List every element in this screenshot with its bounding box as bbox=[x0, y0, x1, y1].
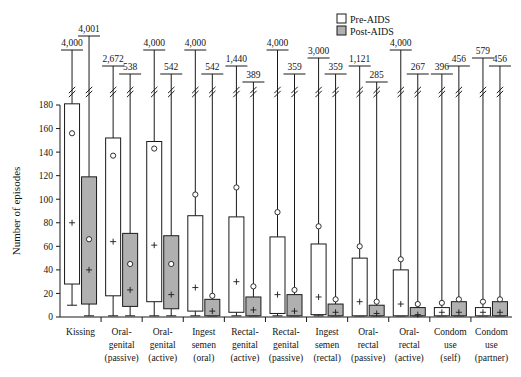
y-axis-title: Number of episodes bbox=[10, 167, 22, 256]
category-label: rectal bbox=[358, 340, 379, 350]
max-value-label: 456 bbox=[452, 54, 467, 64]
percentile-marker bbox=[316, 224, 321, 229]
percentile-marker bbox=[415, 301, 420, 306]
y-axis bbox=[56, 105, 60, 317]
max-value-label: 456 bbox=[493, 54, 508, 64]
box-pre-aids bbox=[102, 66, 124, 316]
percentile-marker bbox=[398, 257, 403, 262]
category-label: semen bbox=[192, 340, 217, 350]
y-axis-tick-label: 120 bbox=[39, 171, 54, 181]
box bbox=[164, 236, 179, 309]
y-axis-tick-label: 80 bbox=[44, 218, 54, 228]
category-label: Oral- bbox=[399, 327, 419, 337]
percentile-marker bbox=[357, 244, 362, 249]
box bbox=[229, 217, 244, 312]
box-pre-aids bbox=[225, 66, 247, 316]
category-label: Oral- bbox=[112, 327, 132, 337]
max-value-label: 4,000 bbox=[144, 38, 166, 48]
y-axis-tick-label: 100 bbox=[39, 195, 54, 205]
box-pre-aids bbox=[184, 50, 206, 316]
y-axis-tick-label: 60 bbox=[44, 242, 54, 252]
y-axis-tick-label: 40 bbox=[44, 265, 54, 275]
box bbox=[393, 270, 408, 316]
boxplot-group bbox=[349, 66, 388, 316]
max-value-label: 1,121 bbox=[349, 54, 371, 64]
chart-figure: 020406080100120140160180Number of episod… bbox=[0, 0, 521, 377]
box bbox=[106, 138, 121, 296]
category-label: genital bbox=[232, 340, 258, 350]
box-post-aids bbox=[201, 74, 223, 316]
box-post-aids bbox=[325, 74, 347, 316]
box-post-aids bbox=[160, 74, 182, 316]
percentile-marker bbox=[169, 261, 174, 266]
max-value-label: 389 bbox=[246, 70, 261, 80]
boxplot-group bbox=[390, 50, 429, 318]
box-post-aids bbox=[119, 74, 141, 316]
category-label: (passive) bbox=[269, 353, 303, 364]
max-value-label: 1,440 bbox=[226, 54, 248, 64]
max-value-label: 4,001 bbox=[78, 24, 100, 34]
box-pre-aids bbox=[431, 74, 453, 316]
category-label: Oral- bbox=[153, 327, 173, 337]
y-axis-tick-label: 160 bbox=[39, 124, 54, 134]
percentile-marker bbox=[275, 210, 280, 215]
category-label: Ingest bbox=[192, 327, 216, 337]
percentile-marker bbox=[251, 284, 256, 289]
category-label: genital bbox=[273, 340, 299, 350]
percentile-marker bbox=[374, 299, 379, 304]
legend-label-pre: Pre-AIDS bbox=[350, 14, 390, 25]
box-post-aids bbox=[242, 82, 264, 316]
box-pre-aids bbox=[143, 50, 165, 316]
box bbox=[147, 142, 162, 302]
box-pre-aids bbox=[472, 58, 494, 316]
boxplot-group bbox=[61, 36, 100, 316]
percentile-marker bbox=[152, 146, 157, 151]
box bbox=[123, 233, 138, 306]
boxplot-group bbox=[184, 50, 223, 316]
max-value-label: 2,672 bbox=[102, 54, 124, 64]
category-label: Ingest bbox=[315, 327, 339, 337]
box-pre-aids bbox=[267, 50, 289, 316]
y-axis-tick-label: 0 bbox=[48, 312, 53, 322]
percentile-marker bbox=[480, 299, 485, 304]
percentile-marker bbox=[234, 185, 239, 190]
percentile-marker bbox=[111, 153, 116, 158]
category-label: Rectal- bbox=[272, 327, 299, 337]
max-value-label: 285 bbox=[370, 70, 385, 80]
max-value-label: 538 bbox=[123, 62, 138, 72]
max-value-label: 542 bbox=[164, 62, 179, 72]
max-value-label: 542 bbox=[205, 62, 220, 72]
category-label: (oral) bbox=[193, 353, 214, 364]
percentile-marker bbox=[86, 237, 91, 242]
category-label: (passive) bbox=[351, 353, 385, 364]
box bbox=[270, 237, 285, 314]
category-label: use bbox=[485, 340, 498, 350]
percentile-marker bbox=[128, 261, 133, 266]
boxplot-group bbox=[102, 66, 141, 316]
category-label: (passive) bbox=[104, 353, 138, 364]
box bbox=[352, 258, 367, 316]
box bbox=[188, 216, 203, 311]
category-label: (active) bbox=[395, 353, 424, 364]
boxplot-group bbox=[431, 66, 470, 316]
box bbox=[311, 244, 326, 315]
category-label: (rectal) bbox=[313, 353, 340, 364]
legend-swatch-post bbox=[337, 26, 346, 35]
box-pre-aids bbox=[61, 50, 83, 305]
y-axis-tick-label: 180 bbox=[39, 100, 54, 110]
percentile-marker bbox=[193, 192, 198, 197]
category-label: (active) bbox=[230, 353, 259, 364]
y-axis-tick-label: 140 bbox=[39, 148, 54, 158]
category-label: use bbox=[444, 340, 457, 350]
max-value-label: 4,000 bbox=[267, 38, 289, 48]
legend-swatch-pre bbox=[337, 14, 346, 23]
legend: Pre-AIDSPost-AIDS bbox=[337, 14, 394, 37]
category-label: (active) bbox=[148, 353, 177, 364]
box-pre-aids bbox=[349, 66, 371, 316]
percentile-marker bbox=[497, 297, 502, 302]
max-value-label: 4,000 bbox=[61, 38, 83, 48]
box-pre-aids bbox=[308, 58, 330, 316]
percentile-marker bbox=[292, 287, 297, 292]
category-label: rectal bbox=[399, 340, 420, 350]
boxplot-groups bbox=[61, 36, 511, 318]
